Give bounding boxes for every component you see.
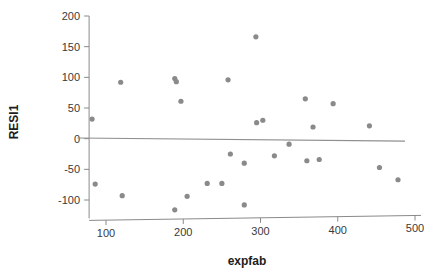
- x-tick-label: 500: [406, 222, 424, 234]
- scatter-plot-figure: 200150100500-50-100100200300400500 expfa…: [0, 0, 445, 274]
- x-axis-spine: [89, 215, 421, 220]
- data-point: [225, 77, 230, 82]
- data-point: [304, 158, 309, 163]
- data-point: [253, 34, 258, 39]
- axes: [89, 16, 421, 220]
- y-tick-label: -50: [64, 163, 80, 175]
- y-tick-label: -100: [58, 194, 80, 206]
- data-point: [260, 118, 265, 123]
- y-tick-label: 50: [68, 102, 80, 114]
- data-point: [172, 207, 177, 212]
- data-point: [205, 181, 210, 186]
- tick-marks: [84, 16, 415, 225]
- data-point: [395, 177, 400, 182]
- y-tick-label: 150: [62, 41, 80, 53]
- data-point: [377, 165, 382, 170]
- data-point: [89, 116, 94, 121]
- y-tick-label: 0: [74, 133, 80, 145]
- data-point: [93, 181, 98, 186]
- y-tick-label: 100: [62, 71, 80, 83]
- y-tick-label: 200: [62, 10, 80, 22]
- x-axis-title: expfab: [228, 254, 267, 268]
- data-point: [310, 124, 315, 129]
- data-point: [178, 99, 183, 104]
- plot-canvas: 200150100500-50-100100200300400500 expfa…: [0, 0, 445, 274]
- x-tick-label: 200: [174, 226, 192, 238]
- data-point: [331, 101, 336, 106]
- data-point: [272, 153, 277, 158]
- data-points: [89, 34, 400, 212]
- data-point: [254, 120, 259, 125]
- x-tick-label: 300: [251, 225, 269, 237]
- data-point: [228, 151, 233, 156]
- data-point: [120, 193, 125, 198]
- data-point: [118, 80, 123, 85]
- data-point: [219, 181, 224, 186]
- data-point: [174, 79, 179, 84]
- fitted-reference-line: [77, 138, 405, 141]
- data-point: [317, 157, 322, 162]
- data-point: [242, 161, 247, 166]
- data-point: [185, 194, 190, 199]
- reference-line: [77, 138, 405, 141]
- data-point: [286, 142, 291, 147]
- x-tick-label: 100: [97, 227, 115, 239]
- data-point: [242, 202, 247, 207]
- data-point: [303, 96, 308, 101]
- data-point: [367, 123, 372, 128]
- y-axis-title: RESI1: [7, 104, 21, 139]
- x-tick-label: 400: [329, 224, 347, 236]
